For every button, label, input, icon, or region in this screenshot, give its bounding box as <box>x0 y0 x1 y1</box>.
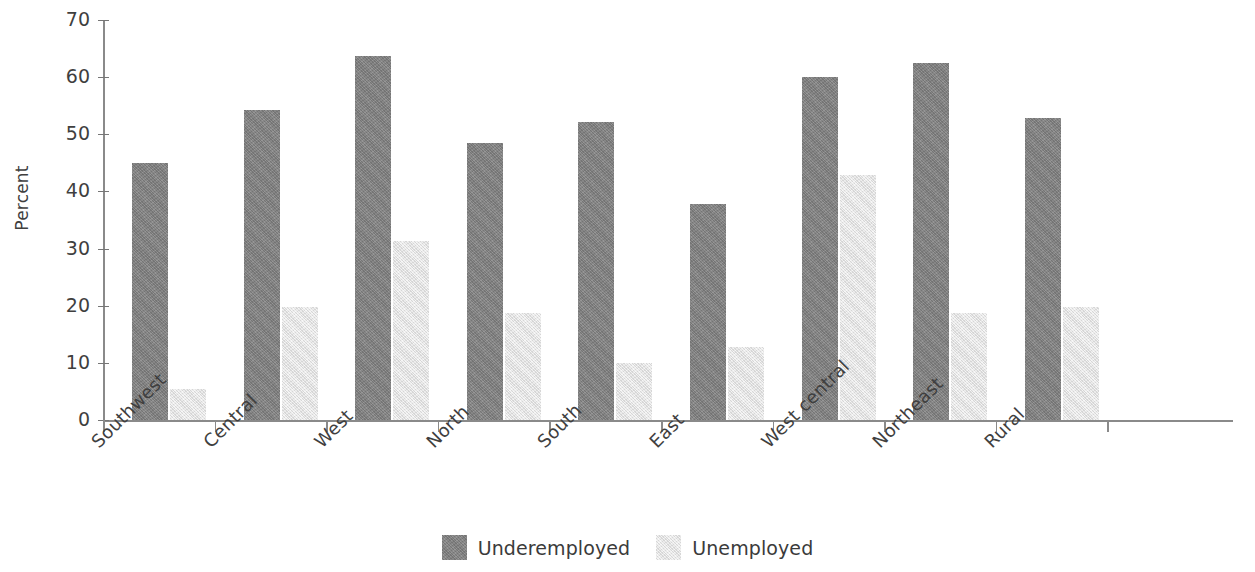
legend-swatch-icon <box>656 535 681 560</box>
legend-item[interactable]: Unemployed <box>656 535 813 560</box>
bar-unemployed <box>728 347 764 420</box>
bar-underemployed <box>244 110 280 420</box>
x-tick-mark <box>1107 420 1109 432</box>
bar-chart: Percent 010203040506070 SouthwestCentral… <box>0 0 1255 572</box>
legend-item[interactable]: Underemployed <box>442 535 631 560</box>
bar-unemployed <box>1063 307 1099 420</box>
bar-underemployed <box>578 122 614 420</box>
bar-underemployed <box>1025 118 1061 420</box>
bar-unemployed <box>282 307 318 420</box>
legend-label: Unemployed <box>692 537 813 559</box>
chart-legend: UnderemployedUnemployed <box>0 535 1255 560</box>
bar-unemployed <box>393 241 429 420</box>
legend-label: Underemployed <box>478 537 631 559</box>
bar-unemployed <box>505 313 541 420</box>
plot-area <box>0 0 1255 421</box>
bar-underemployed <box>690 204 726 420</box>
bar-underemployed <box>913 63 949 420</box>
bar-underemployed <box>355 56 391 420</box>
bar-unemployed <box>840 175 876 420</box>
bar-underemployed <box>467 143 503 420</box>
bar-unemployed <box>616 363 652 420</box>
bar-unemployed <box>951 313 987 420</box>
bar-unemployed <box>170 389 206 420</box>
legend-swatch-icon <box>442 535 467 560</box>
